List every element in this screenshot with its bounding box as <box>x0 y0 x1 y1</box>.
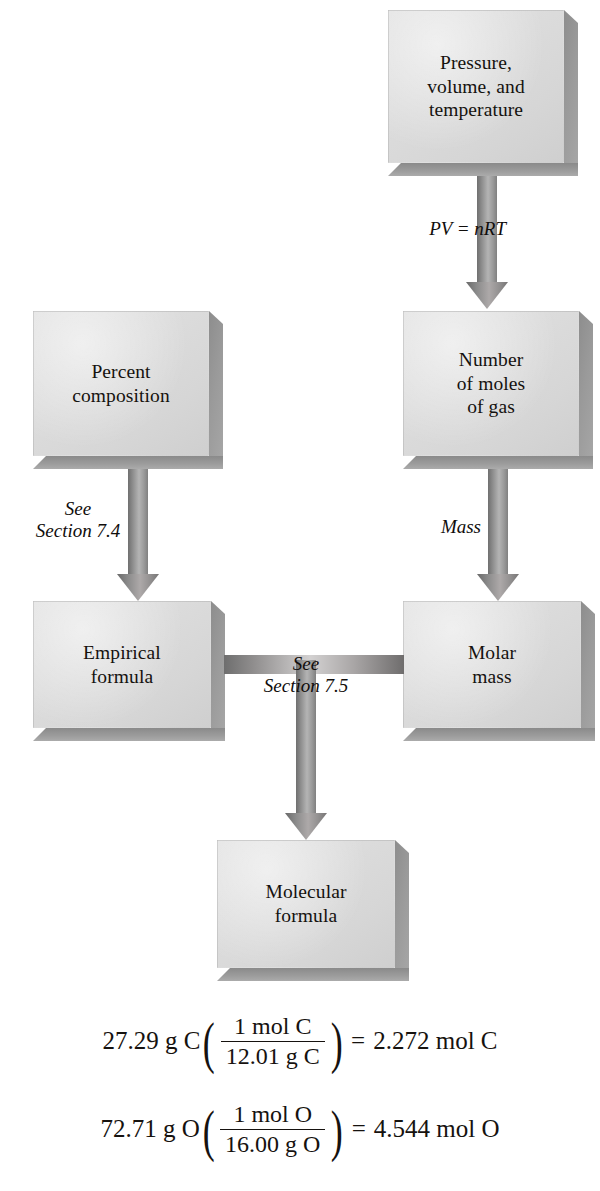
edge-label-line-2: Section 7.5 <box>244 675 368 697</box>
box-shadow-right <box>579 311 593 469</box>
box-shadow-right <box>564 10 578 176</box>
node-pressure-volume-temperature[interactable]: Pressure, volume, and temperature <box>388 10 578 176</box>
node-molar-mass[interactable]: Molar mass <box>403 601 595 741</box>
node-empirical-formula[interactable]: Empirical formula <box>33 601 225 741</box>
node-label: Molar mass <box>462 641 522 688</box>
fraction-numerator: 1 mol C <box>229 1013 316 1041</box>
equation-result: 4.544 mol O <box>374 1115 500 1143</box>
node-label-line-3: temperature <box>427 98 525 122</box>
node-label-line-1: Percent <box>72 360 170 384</box>
node-label: Empirical formula <box>77 641 167 688</box>
box-face: Molecular formula <box>217 840 395 968</box>
fraction-denominator: 12.01 g C <box>221 1041 325 1070</box>
box-shadow-bottom <box>403 456 593 469</box>
diagram-canvas: Pressure, volume, and temperature PV = n… <box>0 0 600 1191</box>
box-shadow-bottom <box>217 968 409 981</box>
node-percent-composition[interactable]: Percent composition <box>33 311 223 469</box>
fraction: 1 mol C 12.01 g C <box>221 1013 325 1070</box>
equation-row: 27.29 g C ( 1 mol C 12.01 g C ) = 2.272 … <box>102 1012 497 1069</box>
edge-label-line-1: See <box>244 653 368 675</box>
equation-row: 72.71 g O ( 1 mol O 16.00 g O ) = 4.544 … <box>100 1100 499 1157</box>
equation-lead: 72.71 g O <box>100 1115 199 1143</box>
box-face: Number of moles of gas <box>403 311 579 456</box>
node-label: Molecular formula <box>259 880 352 927</box>
node-label: Percent composition <box>66 360 176 407</box>
edge-label-see-section-7-4: See Section 7.4 <box>16 498 140 543</box>
box-face: Pressure, volume, and temperature <box>388 10 564 163</box>
arrow-head-icon <box>285 813 327 840</box>
fraction: 1 mol O 16.00 g O <box>220 1101 325 1158</box>
equals-sign: = <box>351 1027 365 1055</box>
node-label-line-2: mass <box>468 665 516 689</box>
equation-oxygen: 72.71 g O ( 1 mol O 16.00 g O ) = 4.544 … <box>0 1100 600 1157</box>
box-face: Percent composition <box>33 311 209 456</box>
edge-label-pv-nrt: PV = nRT <box>382 218 506 240</box>
box-shadow-right <box>395 840 409 981</box>
node-label-line-2: volume, and <box>427 75 525 99</box>
node-label: Number of moles of gas <box>451 348 532 419</box>
node-label-line-1: Pressure, <box>427 51 525 75</box>
node-number-of-moles-of-gas[interactable]: Number of moles of gas <box>403 311 593 469</box>
arrow-pv-nrt <box>466 176 508 309</box>
arrow-head-icon <box>477 574 519 601</box>
node-label-line-2: composition <box>72 384 170 408</box>
edge-label-mass: Mass <box>383 516 481 538</box>
arrow-shaft <box>488 469 508 576</box>
edge-label-see-section-7-5: See Section 7.5 <box>244 653 368 698</box>
box-shadow-right <box>581 601 595 741</box>
fraction-numerator: 1 mol O <box>228 1101 317 1129</box>
edge-label-text: PV = nRT <box>429 218 506 239</box>
equation-lead: 27.29 g C <box>102 1027 200 1055</box>
node-label-line-2: formula <box>265 904 346 928</box>
arrow-head-icon <box>466 282 508 309</box>
box-face: Empirical formula <box>33 601 211 728</box>
node-label-line-2: formula <box>83 665 161 689</box>
edge-label-line-1: See <box>16 498 140 520</box>
node-label-line-1: Empirical <box>83 641 161 665</box>
box-shadow-right <box>211 601 225 741</box>
equation-result: 2.272 mol C <box>373 1027 497 1055</box>
node-label-line-1: Molecular <box>265 880 346 904</box>
box-shadow-right <box>209 311 223 469</box>
arrow-mass <box>477 469 519 601</box>
edge-label-text: Mass <box>441 516 481 537</box>
arrow-head-icon <box>117 574 159 601</box>
equals-sign: = <box>352 1115 366 1143</box>
box-shadow-bottom <box>388 163 578 176</box>
node-label: Pressure, volume, and temperature <box>421 51 531 122</box>
box-shadow-bottom <box>33 728 225 741</box>
node-label-line-1: Number <box>457 348 526 372</box>
node-label-line-3: of gas <box>457 395 526 419</box>
fraction-denominator: 16.00 g O <box>220 1129 325 1158</box>
box-shadow-bottom <box>403 728 595 741</box>
box-face: Molar mass <box>403 601 581 728</box>
equation-carbon: 27.29 g C ( 1 mol C 12.01 g C ) = 2.272 … <box>0 1012 600 1069</box>
node-molecular-formula[interactable]: Molecular formula <box>217 840 409 981</box>
edge-label-line-2: Section 7.4 <box>16 520 140 542</box>
box-shadow-bottom <box>33 456 223 469</box>
node-label-line-2: of moles <box>457 372 526 396</box>
node-label-line-1: Molar <box>468 641 516 665</box>
